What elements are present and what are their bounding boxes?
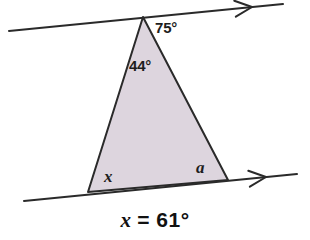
angle-label-x: x [104,168,113,185]
angle-label-a: a [196,159,205,176]
angle-label-44: 44° [129,58,151,73]
caption-variable: x [120,208,131,232]
caption-value: = 61° [131,208,190,231]
angle-label-75: 75° [155,20,177,35]
answer-caption: x = 61° [0,208,310,233]
diagram-canvas [0,0,310,240]
shaded-triangle [88,17,228,192]
geometry-figure: 75° 44° x a x = 61° [0,0,310,240]
